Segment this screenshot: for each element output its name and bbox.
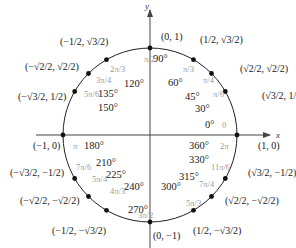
- unit-circle-svg: x y (1, 0)0°360°02π(√3/2, 1/2)30°π/6(√2/…: [0, 0, 296, 248]
- coordinate-label-60: (1/2, √3/2): [200, 34, 243, 46]
- radian-label-315: 7π/4: [199, 179, 215, 189]
- coordinate-label-0: (1, 0): [258, 140, 280, 152]
- coordinate-label-270: (0, −1): [153, 230, 180, 242]
- degree-label-225: 225°: [106, 169, 126, 180]
- degree-label-135: 135°: [98, 88, 118, 99]
- radian-label-30: π/6: [213, 89, 224, 99]
- radian-label-270: 3π/2: [138, 210, 153, 220]
- y-axis-label: y: [144, 1, 149, 11]
- degree-label-0: 0°: [205, 119, 214, 130]
- circle-point-240: [104, 208, 109, 213]
- degree-label-180: 180°: [84, 140, 104, 151]
- degree-label-300: 300°: [161, 181, 181, 192]
- unit-circle-diagram: x y (1, 0)0°360°02π(√3/2, 1/2)30°π/6(√2/…: [0, 0, 296, 248]
- x-axis-label: x: [275, 130, 280, 140]
- radian-label-0: 0: [222, 120, 226, 130]
- degree-label-90: 90°: [153, 53, 168, 64]
- radian-label-225: 5π/4: [92, 174, 108, 184]
- degree-label-315: 315°: [179, 171, 199, 182]
- coordinate-label-30: (√3/2, 1/2): [262, 90, 296, 102]
- degree-label-240: 240°: [124, 181, 144, 192]
- degree-label-45: 45°: [185, 91, 200, 102]
- degree-label-30: 30°: [195, 103, 210, 114]
- degree-label-120: 120°: [124, 78, 144, 89]
- circle-point-0: [235, 133, 240, 138]
- coordinate-label-240: (−1/2, −√3/2): [52, 225, 106, 237]
- coordinate-label-300: (1/2, −√3/2): [193, 225, 241, 237]
- degree-label-330: 330°: [189, 154, 209, 165]
- coordinate-label-135: (−√2/2, √2/2): [25, 61, 79, 73]
- radian-label-240: 4π/3: [110, 186, 125, 196]
- coordinate-label-225: (−√2/2, −√2/2): [20, 195, 79, 207]
- radian-label-90: π/2: [144, 54, 155, 64]
- degree-label-alt-0: 360°: [189, 140, 209, 151]
- coordinate-label-180: (−1, 0): [33, 140, 60, 152]
- coordinate-label-45: (√2/2, √2/2): [240, 63, 288, 75]
- circle-point-300: [191, 208, 196, 213]
- radian-label-120: 2π/3: [110, 64, 125, 74]
- radian-label-alt-0: 2π: [220, 141, 229, 151]
- coordinate-label-330: (√3/2, −1/2): [248, 167, 296, 179]
- circle-point-120: [104, 57, 109, 62]
- radian-label-45: π/4: [203, 75, 215, 85]
- coordinate-label-120: (−1/2, √3/2): [60, 36, 108, 48]
- coordinate-label-150: (−√3/2, 1/2): [18, 91, 66, 103]
- circle-point-330: [223, 176, 228, 181]
- circle-point-60: [191, 57, 196, 62]
- radian-label-210: 7π/6: [76, 162, 91, 172]
- circle-point-180: [61, 133, 66, 138]
- radian-label-330: 11π/6: [211, 162, 230, 172]
- degree-label-60: 60°: [168, 77, 183, 88]
- circle-point-210: [72, 176, 77, 181]
- coordinate-label-90: (0, 1): [161, 31, 183, 43]
- degree-label-210: 210°: [96, 157, 116, 168]
- circle-point-150: [72, 89, 77, 94]
- coordinate-label-210: (−√3/2, −1/2): [10, 167, 64, 179]
- circle-point-135: [86, 71, 91, 76]
- circle-point-225: [86, 194, 91, 199]
- circle-point-315: [209, 194, 214, 199]
- coordinate-label-315: (√2/2, −√2/2): [225, 195, 279, 207]
- radian-label-60: π/3: [183, 64, 194, 74]
- radian-label-300: 5π/3: [186, 198, 201, 208]
- marks-layer: (1, 0)0°360°02π(√3/2, 1/2)30°π/6(√2/2, √…: [10, 31, 296, 242]
- circle-point-270: [148, 220, 153, 225]
- radian-label-180: π: [73, 141, 78, 151]
- radian-label-150: 5π/6: [84, 89, 99, 99]
- degree-label-150: 150°: [98, 102, 118, 113]
- radian-label-135: 3π/4: [96, 75, 112, 85]
- circle-point-90: [148, 46, 153, 51]
